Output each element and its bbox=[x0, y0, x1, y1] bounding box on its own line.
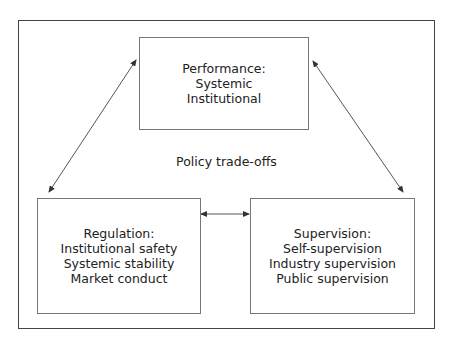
supervision-item: Industry supervision bbox=[269, 256, 396, 271]
regulation-title: Regulation: bbox=[84, 226, 155, 241]
policy-tradeoffs-label: Policy trade-offs bbox=[0, 154, 453, 169]
regulation-box: Regulation: Institutional safety Systemi… bbox=[37, 198, 201, 314]
arrow-performance-regulation bbox=[49, 60, 136, 192]
regulation-item: Systemic stability bbox=[64, 256, 175, 271]
performance-title: Performance: bbox=[182, 61, 265, 76]
performance-item: Systemic bbox=[196, 76, 253, 91]
performance-item: Institutional bbox=[187, 91, 261, 106]
arrow-performance-supervision bbox=[313, 61, 403, 192]
supervision-item: Public supervision bbox=[276, 271, 389, 286]
supervision-title: Supervision: bbox=[294, 226, 371, 241]
performance-box: Performance: Systemic Institutional bbox=[139, 37, 309, 130]
regulation-item: Institutional safety bbox=[61, 241, 178, 256]
supervision-box: Supervision: Self-supervision Industry s… bbox=[250, 198, 415, 314]
regulation-item: Market conduct bbox=[70, 271, 167, 286]
supervision-item: Self-supervision bbox=[283, 241, 382, 256]
